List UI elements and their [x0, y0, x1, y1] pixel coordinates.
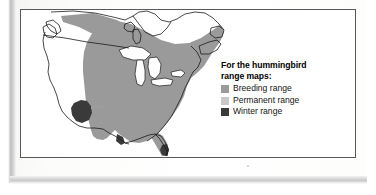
scan-speck: [247, 165, 249, 167]
map-legend: For the hummingbird range maps: Breeding…: [221, 60, 353, 118]
legend-item-label: Permanent range: [233, 95, 299, 107]
legend-item-permanent-range: Permanent range: [221, 95, 353, 107]
legend-item-breeding-range: Breeding range: [221, 83, 353, 95]
lake-michigan: [135, 60, 145, 86]
permanent-range-swatch: [221, 97, 229, 105]
page-shadow-left: [8, 0, 16, 183]
legend-item-label: Winter range: [233, 106, 282, 118]
legend-item-label: Breeding range: [233, 83, 292, 95]
scanned-page: For the hummingbird range maps: Breeding…: [0, 0, 376, 195]
north-america-map-svg: [21, 10, 226, 157]
legend-item-winter-range: Winter range: [221, 106, 353, 118]
page-shadow-bottom: [10, 176, 367, 184]
winter-range-southwest: [71, 100, 92, 123]
figure-frame: For the hummingbird range maps: Breeding…: [20, 9, 356, 158]
range-map: [21, 10, 226, 157]
breeding-range-swatch: [221, 85, 229, 93]
lake-erie: [151, 78, 173, 86]
winter-range-swatch: [221, 108, 229, 116]
legend-title: For the hummingbird range maps:: [221, 60, 353, 81]
